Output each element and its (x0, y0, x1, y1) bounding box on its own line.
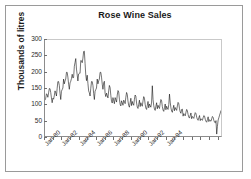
x-tick-mark (192, 137, 193, 140)
x-tick-mark (122, 137, 123, 140)
y-tick-mark (44, 104, 47, 105)
y-tick-mark (44, 121, 47, 122)
y-tick-mark (44, 39, 47, 40)
x-tick-mark (174, 137, 175, 140)
x-tick-mark (209, 137, 210, 140)
y-tick-mark (44, 88, 47, 89)
x-tick-mark (218, 137, 219, 140)
y-tick-label: 200 (14, 69, 42, 75)
y-tick-mark (44, 55, 47, 56)
x-tick-mark (200, 137, 201, 140)
y-tick-label: 100 (14, 101, 42, 107)
x-tick-mark (105, 137, 106, 140)
y-axis-tick-labels: 050100150200250300 (10, 39, 42, 137)
chart-figure: Rose Wine Sales Thousands of litres 0501… (0, 0, 251, 179)
x-tick-mark (70, 137, 71, 140)
x-tick-mark (53, 137, 54, 140)
x-tick-mark (87, 137, 88, 140)
series-line-rose-wine-sales (45, 40, 221, 136)
y-tick-label: 150 (14, 85, 42, 91)
y-tick-label: 50 (14, 118, 42, 124)
y-tick-label: 0 (14, 134, 42, 140)
y-tick-label: 300 (14, 36, 42, 42)
x-tick-mark (183, 137, 184, 140)
y-tick-mark (44, 72, 47, 73)
x-tick-mark (157, 137, 158, 140)
x-tick-mark (140, 137, 141, 140)
y-tick-label: 250 (14, 52, 42, 58)
chart-title: Rose Wine Sales (40, 10, 230, 20)
plot-area (44, 39, 222, 137)
